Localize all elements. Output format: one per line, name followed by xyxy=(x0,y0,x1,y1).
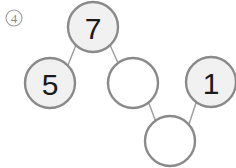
puzzle-canvas: 751 4 xyxy=(0,0,236,168)
node-value-label: 5 xyxy=(42,68,59,101)
node-circle-empty[interactable] xyxy=(145,116,195,166)
node-circle-empty[interactable] xyxy=(108,58,158,108)
node-value-label: 1 xyxy=(203,67,220,100)
graph-edge-nmid-nbot xyxy=(148,101,156,122)
graph-edge-nbot-n1 xyxy=(189,103,196,124)
node-layer: 751 xyxy=(25,2,236,166)
node-value-label: 7 xyxy=(85,12,102,45)
graph-edge-n5-n7 xyxy=(68,45,76,65)
graph-node-nmid[interactable] xyxy=(108,58,158,108)
index-badge-label: 4 xyxy=(11,11,18,26)
index-badge-layer: 4 xyxy=(6,10,22,26)
graph-node-n5[interactable]: 5 xyxy=(25,58,75,108)
item-index-badge: 4 xyxy=(6,10,22,26)
graph-node-n7[interactable]: 7 xyxy=(68,2,118,52)
graph-canvas-svg: 751 4 xyxy=(0,0,236,168)
graph-node-n1[interactable]: 1 xyxy=(186,57,236,107)
graph-edge-n7-nmid xyxy=(110,45,118,63)
graph-node-nbot[interactable] xyxy=(145,116,195,166)
